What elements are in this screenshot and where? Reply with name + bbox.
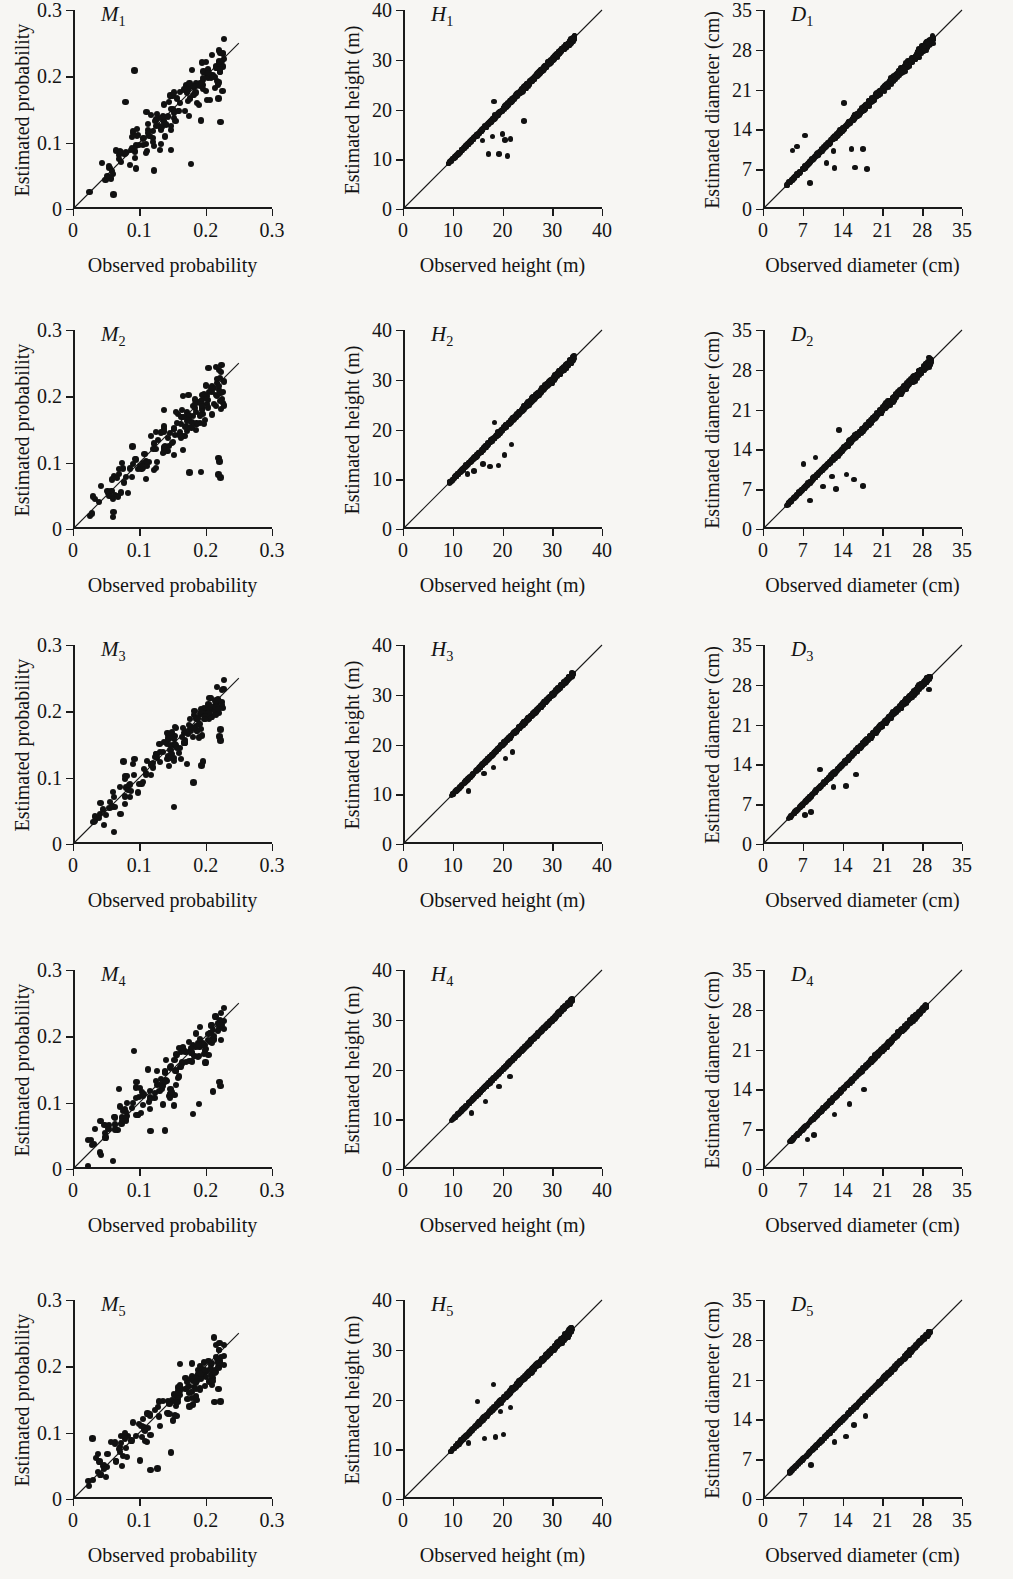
y-tick — [756, 645, 763, 646]
panel-tag-letter: M — [101, 1292, 119, 1316]
x-tick-label: 30 — [542, 855, 562, 875]
x-tick — [453, 209, 454, 216]
panel-d2: Estimated diameter (cm)07142128350714212… — [690, 320, 1013, 620]
x-tick-label: 0.3 — [260, 1180, 285, 1200]
x-tick — [272, 1169, 273, 1176]
panel-tag-h5: H5 — [431, 1292, 453, 1320]
x-tick-label: 35 — [952, 1510, 972, 1530]
y-tick-label: 20 — [372, 1390, 392, 1410]
plot-area: 010203040010203040Observed height (m) — [403, 970, 602, 1169]
x-tick — [503, 209, 504, 216]
y-tick — [756, 1050, 763, 1051]
y-tick — [756, 1419, 763, 1420]
figure-panel-grid: Estimated probability00.10.20.300.10.20.… — [0, 0, 1013, 1579]
x-tick-label: 30 — [542, 1180, 562, 1200]
panel-tag-subscript: 2 — [806, 333, 813, 349]
panel-m5: Estimated probability00.10.20.300.10.20.… — [0, 1290, 338, 1579]
x-axis-label: Observed probability — [88, 1214, 257, 1237]
y-tick — [66, 778, 73, 779]
x-tick-label: 7 — [798, 1180, 808, 1200]
y-axis-label: Estimated probability — [11, 1313, 34, 1486]
y-tick — [66, 1103, 73, 1104]
x-tick-label: 7 — [798, 1510, 808, 1530]
y-tick — [66, 1499, 73, 1500]
y-tick — [756, 330, 763, 331]
scatter-points — [73, 645, 272, 844]
y-axis-label: Estimated diameter (cm) — [701, 1301, 724, 1499]
y-tick-label: 28 — [732, 675, 752, 695]
x-tick — [139, 844, 140, 851]
x-tick-label: 35 — [952, 220, 972, 240]
y-tick-label: 14 — [732, 439, 752, 459]
panel-d1: Estimated diameter (cm)07142128350714212… — [690, 0, 1013, 300]
x-axis-label: Observed diameter (cm) — [765, 1214, 959, 1237]
y-tick-label: 0.1 — [37, 453, 62, 473]
y-tick — [66, 1433, 73, 1434]
y-tick — [396, 1169, 403, 1170]
y-tick — [396, 430, 403, 431]
y-tick — [756, 10, 763, 11]
y-tick — [756, 529, 763, 530]
y-tick — [66, 645, 73, 646]
x-tick-label: 0 — [758, 1180, 768, 1200]
panel-tag-m4: M4 — [101, 962, 126, 990]
plot-area: 07142128350714212835Observed diameter (c… — [763, 970, 962, 1169]
x-tick-label: 0 — [398, 855, 408, 875]
y-tick-label: 0 — [742, 1159, 752, 1179]
y-tick — [66, 330, 73, 331]
x-tick — [73, 529, 74, 536]
x-tick-label: 30 — [542, 540, 562, 560]
y-tick — [756, 1169, 763, 1170]
x-tick — [962, 529, 963, 536]
x-tick-label: 0.2 — [193, 855, 218, 875]
y-tick-label: 20 — [372, 420, 392, 440]
y-tick-label: 7 — [742, 1449, 752, 1469]
panel-tag-subscript: 3 — [806, 648, 813, 664]
y-tick-label: 0 — [382, 834, 392, 854]
plot-area: 010203040010203040Observed height (m) — [403, 330, 602, 529]
x-tick — [763, 1499, 764, 1506]
x-tick-label: 14 — [833, 1510, 853, 1530]
x-tick — [882, 844, 883, 851]
y-tick — [396, 695, 403, 696]
x-tick — [503, 529, 504, 536]
x-tick — [922, 529, 923, 536]
y-tick-label: 30 — [372, 1340, 392, 1360]
x-tick-label: 20 — [493, 220, 513, 240]
panel-m4: Estimated probability00.10.20.300.10.20.… — [0, 960, 338, 1260]
y-tick-label: 21 — [732, 1370, 752, 1390]
panel-tag-m1: M1 — [101, 2, 126, 30]
y-tick — [396, 1350, 403, 1351]
x-tick-label: 0 — [68, 1180, 78, 1200]
y-tick-label: 7 — [742, 1119, 752, 1139]
y-tick — [396, 529, 403, 530]
x-tick — [206, 844, 207, 851]
x-tick — [139, 1499, 140, 1506]
x-tick-label: 14 — [833, 220, 853, 240]
y-tick-label: 0 — [52, 519, 62, 539]
panel-h5: Estimated height (m)010203040010203040Ob… — [330, 1290, 668, 1579]
x-tick-label: 0.3 — [260, 855, 285, 875]
x-tick — [453, 1169, 454, 1176]
scatter-points — [403, 970, 602, 1169]
x-tick — [962, 1499, 963, 1506]
y-tick-label: 35 — [732, 960, 752, 980]
y-tick — [66, 970, 73, 971]
y-tick-label: 21 — [732, 1040, 752, 1060]
y-tick-label: 40 — [372, 960, 392, 980]
x-tick-label: 35 — [952, 540, 972, 560]
x-tick — [503, 844, 504, 851]
panel-tag-h2: H2 — [431, 322, 453, 350]
y-tick-label: 0 — [382, 519, 392, 539]
x-tick-label: 0.2 — [193, 1510, 218, 1530]
y-tick-label: 28 — [732, 40, 752, 60]
x-tick-label: 21 — [872, 1510, 892, 1530]
x-tick — [272, 529, 273, 536]
x-tick-label: 7 — [798, 540, 808, 560]
y-tick-label: 0.1 — [37, 1093, 62, 1113]
y-tick-label: 20 — [372, 1060, 392, 1080]
y-tick-label: 10 — [372, 149, 392, 169]
x-tick-label: 0.1 — [127, 1510, 152, 1530]
y-tick — [756, 1499, 763, 1500]
x-tick-label: 0.1 — [127, 540, 152, 560]
